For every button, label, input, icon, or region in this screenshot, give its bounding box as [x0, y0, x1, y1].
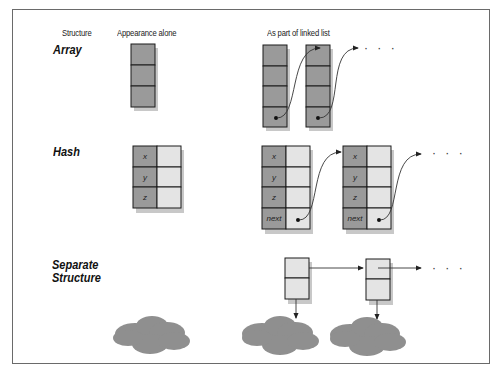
svg-text:next: next	[347, 214, 363, 223]
svg-text:z: z	[271, 193, 276, 202]
array-continuation: · · ·	[364, 41, 398, 55]
svg-text:z: z	[142, 193, 147, 202]
hash-continuation: · · ·	[432, 146, 466, 160]
hash-linked-node-1: x y z next	[262, 146, 313, 234]
separate-node-2	[366, 259, 393, 305]
array-alone	[131, 44, 158, 111]
array-linked-node-1	[263, 45, 290, 131]
separate-continuation: · · ·	[432, 261, 466, 275]
separate-node-1	[285, 258, 312, 304]
hash-alone: x y z	[133, 146, 184, 213]
cloud-alone	[113, 316, 190, 354]
svg-text:z: z	[352, 193, 357, 202]
cloud-node-2	[330, 317, 406, 356]
cloud-node-1	[242, 316, 319, 355]
diagram-canvas: · · · x y z x y z next	[0, 0, 500, 385]
hash-linked-node-2: x y z next	[343, 146, 394, 234]
svg-text:next: next	[266, 214, 282, 223]
